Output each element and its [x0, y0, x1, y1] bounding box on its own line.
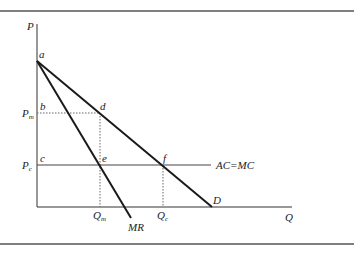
demand-curve [37, 61, 212, 207]
point-d-label: d [100, 100, 106, 112]
pc-label: Pc [21, 159, 33, 173]
x-axis-label: Q [285, 211, 293, 223]
demand-label: D [212, 194, 221, 206]
point-f-label: f [163, 152, 168, 164]
point-a-label: a [39, 48, 45, 60]
qc-label: Qc [157, 209, 169, 223]
point-c-label: c [40, 152, 45, 164]
point-b-label: b [40, 100, 46, 112]
ac-mc-label: AC=MC [215, 159, 255, 171]
qm-label: Qm [93, 209, 106, 223]
point-e-label: e [102, 152, 107, 164]
mr-label: MR [127, 221, 144, 233]
mr-curve [37, 61, 131, 218]
y-axis-label: P [26, 20, 34, 32]
pm-label: Pm [21, 107, 34, 121]
diagram-canvas: P Q a b d c e f Pm Pc Qm Qc D MR AC=MC [0, 0, 354, 254]
